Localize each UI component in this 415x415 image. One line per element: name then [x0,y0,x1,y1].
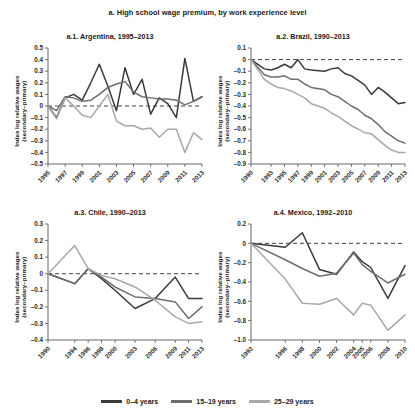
legend-swatch-15-19-years [171,400,192,403]
figure-title: a. High school wage premium, by work exp… [0,8,415,17]
svg-text:–0.5: –0.5 [31,160,44,167]
svg-text:0: 0 [39,270,43,277]
svg-text:2013: 2013 [190,168,205,183]
svg-text:2007: 2007 [139,168,154,183]
svg-text:1998: 1998 [90,344,105,359]
legend-swatch-0-4-years [101,400,122,403]
svg-text:0.5: 0.5 [34,44,43,51]
svg-text:1998: 1998 [291,344,306,359]
svg-text:–0.7: –0.7 [234,137,247,144]
svg-text:2011: 2011 [173,168,188,183]
svg-text:2009: 2009 [164,344,179,359]
svg-text:2002: 2002 [325,344,340,359]
svg-text:–0.3: –0.3 [234,91,247,98]
svg-text:–0.6: –0.6 [234,125,247,132]
svg-text:1990: 1990 [36,344,51,359]
svg-text:2009: 2009 [156,168,171,183]
svg-text:–0.3: –0.3 [31,137,44,144]
panel-a3-plot: 0.30.20.10–0.1–0.2–0.3–0.419901994199619… [12,218,208,380]
svg-text:–0.4: –0.4 [234,278,247,285]
svg-text:1995: 1995 [273,168,288,183]
svg-text:1992: 1992 [239,344,254,359]
svg-text:–0.1: –0.1 [31,286,44,293]
svg-text:0: 0 [242,56,246,63]
legend-label-25-29-years: 25–29 years [274,398,314,405]
svg-text:2008: 2008 [376,344,391,359]
svg-text:2005: 2005 [340,168,355,183]
panel-a4-plot: 0.20–0.2–0.4–0.6–0.8–1.01992199619982000… [215,218,411,380]
svg-text:2003: 2003 [326,168,341,183]
svg-text:0.2: 0.2 [34,237,43,244]
svg-text:0.2: 0.2 [34,79,43,86]
svg-text:–0.9: –0.9 [234,160,247,167]
svg-text:0.4: 0.4 [34,56,43,63]
legend-label-15-19-years: 15–19 years [196,398,236,405]
svg-text:–0.4: –0.4 [31,149,44,156]
svg-text:2013: 2013 [190,344,205,359]
svg-text:–1.0: –1.0 [234,336,247,343]
svg-text:2011: 2011 [177,344,192,359]
legend: 0–4 years 15–19 years 25–29 years [0,398,415,405]
svg-text:0.1: 0.1 [237,44,246,51]
panel-a3-chile: a.3. Chile, 1990–2013 Index log relative… [12,208,208,380]
svg-text:0.3: 0.3 [34,220,43,227]
svg-text:1996: 1996 [77,344,92,359]
panel-a4-title: a.4. Mexico, 1992–2010 [215,208,411,217]
svg-text:2000: 2000 [308,344,323,359]
svg-text:0.1: 0.1 [34,91,43,98]
legend-swatch-25-29-years [249,400,270,403]
legend-item-0-4-years: 0–4 years [101,398,158,405]
svg-text:–0.1: –0.1 [31,114,44,121]
svg-text:–0.2: –0.2 [234,259,247,266]
panel-a1-argentina: a.1. Argentina, 1995–2013 Index log rela… [12,32,208,204]
svg-text:0.3: 0.3 [34,67,43,74]
svg-text:–0.2: –0.2 [31,125,44,132]
panel-a2-plot: 0.10–0.1–0.2–0.3–0.4–0.5–0.6–0.7–0.8–0.9… [215,42,411,204]
svg-text:–0.8: –0.8 [234,149,247,156]
panel-a4-mexico: a.4. Mexico, 1992–2010 Index log relativ… [215,208,411,380]
svg-text:1997: 1997 [286,168,301,183]
svg-text:1996: 1996 [274,344,289,359]
svg-text:2003: 2003 [123,344,138,359]
figure-root: a. High school wage premium, by work exp… [0,0,415,415]
svg-text:1997: 1997 [53,168,68,183]
svg-text:0.2: 0.2 [237,220,246,227]
svg-text:2006: 2006 [143,344,158,359]
svg-text:2003: 2003 [105,168,120,183]
svg-text:–0.4: –0.4 [234,102,247,109]
panel-a3-title: a.3. Chile, 1990–2013 [12,208,208,217]
svg-text:2001: 2001 [313,168,328,183]
svg-text:1999: 1999 [71,168,86,183]
svg-text:2009: 2009 [367,168,382,183]
svg-text:2005: 2005 [122,168,137,183]
svg-text:0: 0 [39,102,43,109]
svg-text:0.1: 0.1 [34,253,43,260]
panel-a1-plot: 0.50.40.30.20.10–0.1–0.2–0.3–0.4–0.51995… [12,42,208,204]
legend-label-0-4-years: 0–4 years [126,398,158,405]
svg-text:2011: 2011 [380,168,395,183]
svg-text:2000: 2000 [103,344,118,359]
svg-text:1999: 1999 [300,168,315,183]
svg-text:–0.5: –0.5 [234,114,247,121]
svg-text:1994: 1994 [63,344,78,359]
svg-text:–0.1: –0.1 [234,67,247,74]
legend-item-25-29-years: 25–29 years [249,398,314,405]
svg-text:–0.2: –0.2 [234,79,247,86]
svg-text:2013: 2013 [393,168,408,183]
svg-text:–0.4: –0.4 [31,336,44,343]
panel-a1-title: a.1. Argentina, 1995–2013 [12,32,208,41]
svg-text:2007: 2007 [353,168,368,183]
svg-text:2010: 2010 [393,344,408,359]
svg-text:–0.6: –0.6 [234,298,247,305]
legend-item-15-19-years: 15–19 years [171,398,236,405]
svg-text:1993: 1993 [259,168,274,183]
panel-a2-brazil: a.2. Brazil, 1990–2013 Index log relativ… [215,32,411,204]
svg-text:–0.8: –0.8 [234,317,247,324]
svg-text:1995: 1995 [36,168,51,183]
svg-text:–0.2: –0.2 [31,303,44,310]
panel-a2-title: a.2. Brazil, 1990–2013 [215,32,411,41]
svg-text:0: 0 [242,240,246,247]
svg-text:1990: 1990 [239,168,254,183]
svg-text:–0.3: –0.3 [31,320,44,327]
svg-text:2001: 2001 [88,168,103,183]
